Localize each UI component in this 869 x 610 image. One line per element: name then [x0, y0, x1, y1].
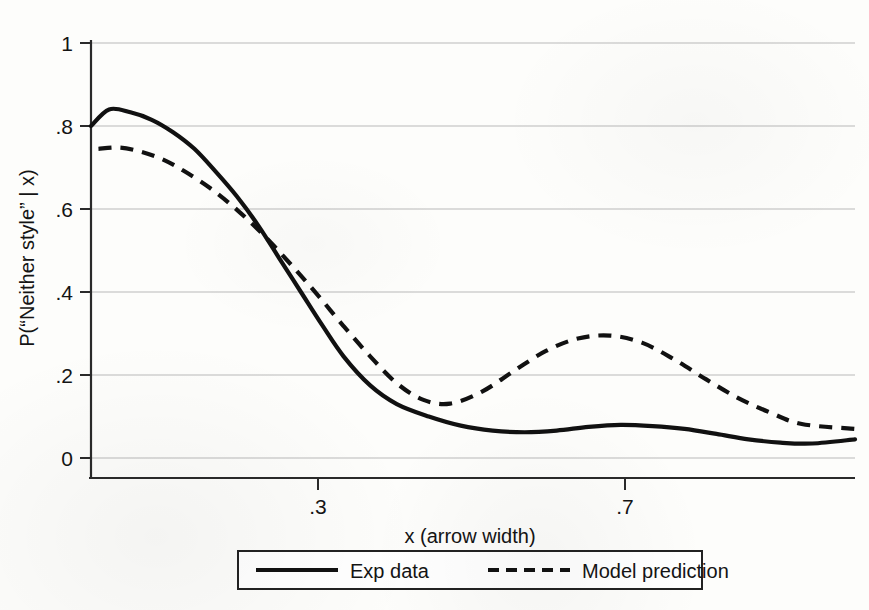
series-exp-data — [91, 109, 855, 444]
y-tick-label-04: .4 — [55, 281, 73, 304]
x-axis-title: x (arrow width) — [404, 525, 535, 547]
chart-legend: Exp data Model prediction — [238, 551, 729, 589]
legend-label-model-prediction: Model prediction — [582, 560, 729, 582]
y-axis-title: P(“Neither style” | x) — [16, 169, 38, 346]
line-chart: 1 .8 .6 .4 .2 0 P(“Neither style” | x) .… — [0, 0, 869, 610]
x-tick-label-07: .7 — [616, 495, 634, 518]
series-group — [91, 109, 855, 444]
y-tick-label-02: .2 — [55, 364, 73, 387]
x-tick-label-03: .3 — [309, 495, 327, 518]
y-tick-label-08: .8 — [55, 115, 73, 138]
x-axis: .3 .7 x (arrow width) — [89, 478, 855, 547]
series-model-prediction — [98, 147, 855, 428]
y-tick-label-0: 0 — [61, 447, 73, 470]
y-axis: 1 .8 .6 .4 .2 0 P(“Neither style” | x) — [16, 32, 91, 478]
chart-figure: 1 .8 .6 .4 .2 0 P(“Neither style” | x) .… — [0, 0, 869, 610]
gridlines — [91, 43, 855, 458]
legend-label-exp-data: Exp data — [350, 560, 430, 582]
y-tick-label-1: 1 — [61, 32, 73, 55]
y-tick-label-06: .6 — [55, 198, 73, 221]
